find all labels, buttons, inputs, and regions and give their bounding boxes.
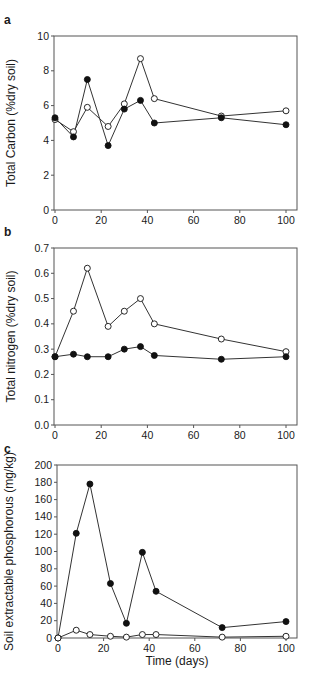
y-tick-label: 80: [40, 562, 52, 574]
data-point-filled: [151, 352, 157, 358]
data-point-filled: [137, 344, 143, 350]
series-line-open: [55, 268, 286, 357]
chart-panel-c: c020406080100120140160180200020406080100…: [0, 440, 314, 685]
y-tick-label: 0: [46, 632, 52, 644]
data-point-open: [151, 96, 157, 102]
data-point-filled: [218, 356, 224, 362]
data-point-filled: [105, 143, 111, 149]
data-point-open: [121, 308, 127, 314]
y-tick-label: 2: [43, 169, 49, 181]
data-point-filled: [283, 354, 289, 360]
y-tick-label: 0.6: [34, 267, 49, 279]
data-point-filled: [107, 581, 113, 587]
data-point-filled: [73, 530, 79, 536]
y-tick-label: 40: [40, 597, 52, 609]
data-point-filled: [121, 106, 127, 112]
y-tick-label: 10: [37, 30, 49, 42]
y-axis-title: Total nitrogen (%dry soil): [4, 270, 18, 402]
data-point-open: [123, 634, 129, 640]
data-point-open: [105, 123, 111, 129]
data-point-filled: [70, 134, 76, 140]
data-point-open: [283, 633, 289, 639]
data-point-open: [87, 632, 93, 638]
y-tick-label: 0.4: [34, 317, 49, 329]
plot-frame: [54, 36, 297, 210]
x-tick-label: 40: [143, 642, 155, 654]
y-tick-label: 0.5: [34, 292, 49, 304]
y-tick-label: 0.1: [34, 393, 49, 405]
y-tick-label: 8: [43, 64, 49, 76]
data-point-open: [70, 308, 76, 314]
phosphorous-chart: c020406080100120140160180200020406080100…: [0, 440, 314, 685]
data-point-filled: [137, 97, 143, 103]
series-line-filled: [58, 484, 286, 638]
plot-frame: [57, 465, 297, 638]
data-point-filled: [84, 354, 90, 360]
data-point-open: [218, 336, 224, 342]
data-point-filled: [218, 115, 224, 121]
data-point-open: [151, 321, 157, 327]
y-tick-label: 6: [43, 99, 49, 111]
data-point-filled: [153, 588, 159, 594]
y-tick-label: 0.7: [34, 242, 49, 254]
panel-letter: b: [4, 225, 11, 239]
data-point-open: [139, 632, 145, 638]
data-point-open: [219, 634, 225, 640]
data-point-filled: [87, 481, 93, 487]
data-point-open: [107, 633, 113, 639]
plot-frame: [54, 248, 297, 425]
data-point-open: [153, 632, 159, 638]
data-point-open: [73, 627, 79, 633]
data-point-open: [283, 108, 289, 114]
x-tick-label: 0: [55, 642, 61, 654]
panel-letter: a: [4, 13, 11, 27]
x-axis-title: Time (days): [146, 654, 209, 668]
data-point-open: [55, 635, 61, 641]
y-tick-label: 200: [34, 459, 52, 471]
series-line-filled: [55, 80, 286, 146]
x-tick-label: 100: [277, 642, 295, 654]
x-tick-label: 60: [189, 642, 201, 654]
x-tick-label: 80: [235, 642, 247, 654]
y-tick-label: 0: [43, 204, 49, 216]
x-tick-label: 20: [98, 642, 110, 654]
data-point-filled: [139, 549, 145, 555]
y-axis-title: Total Carbon (%dry soil): [4, 59, 18, 187]
data-point-filled: [52, 354, 58, 360]
data-point-filled: [52, 115, 58, 121]
y-tick-label: 60: [40, 580, 52, 592]
y-tick-label: 20: [40, 614, 52, 626]
y-tick-label: 180: [34, 476, 52, 488]
data-point-open: [84, 104, 90, 110]
data-point-filled: [283, 619, 289, 625]
data-point-filled: [84, 77, 90, 83]
data-point-open: [137, 296, 143, 302]
y-tick-label: 140: [34, 510, 52, 522]
data-point-filled: [151, 120, 157, 126]
chart-panel-b: b0.00.10.20.30.40.50.60.7020406080100Tot…: [0, 222, 314, 447]
y-tick-label: 100: [34, 545, 52, 557]
y-tick-label: 160: [34, 493, 52, 505]
y-tick-label: 0.0: [34, 419, 49, 431]
data-point-open: [105, 323, 111, 329]
data-point-filled: [123, 620, 129, 626]
data-point-filled: [283, 122, 289, 128]
data-point-open: [137, 56, 143, 62]
carbon-chart: a0246810020406080100Total Carbon (%dry s…: [0, 0, 314, 228]
data-point-open: [84, 265, 90, 271]
data-point-filled: [70, 351, 76, 357]
y-tick-label: 120: [34, 528, 52, 540]
y-tick-label: 0.3: [34, 343, 49, 355]
data-point-filled: [219, 625, 225, 631]
data-point-filled: [105, 354, 111, 360]
y-tick-label: 4: [43, 134, 49, 146]
y-axis-title: Soil extractable phosphorous (mg/kg): [2, 452, 16, 651]
nitrogen-chart: b0.00.10.20.30.40.50.60.7020406080100Tot…: [0, 222, 314, 447]
data-point-filled: [121, 346, 127, 352]
y-tick-label: 0.2: [34, 368, 49, 380]
chart-panel-a: a0246810020406080100Total Carbon (%dry s…: [0, 0, 314, 228]
